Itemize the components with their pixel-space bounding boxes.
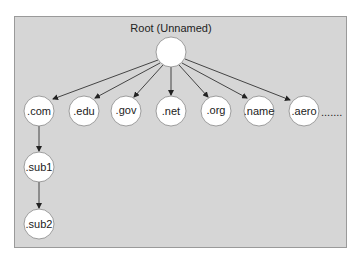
tld-label-net: .net: [162, 105, 180, 117]
tld-label-name: .name: [244, 105, 275, 117]
edge-root-aero: [185, 59, 290, 100]
root-node: [156, 37, 186, 67]
subdomain-label-sub2: .sub2: [26, 218, 53, 230]
edge-root-com: [53, 60, 158, 99]
tld-label-edu: .edu: [73, 105, 94, 117]
tld-label-aero: .aero: [291, 105, 316, 117]
subdomain-label-sub1: .sub1: [26, 161, 53, 173]
tld-label-com: .com: [27, 105, 51, 117]
edge-root-org: [179, 65, 208, 97]
edge-root-name: [182, 63, 247, 98]
edge-root-edu: [95, 63, 160, 98]
tld-label-org: .org: [207, 104, 226, 116]
tld-label-gov: .gov: [116, 104, 137, 116]
more-tlds-ellipsis: .......: [321, 106, 342, 118]
edge-root-gov: [134, 65, 163, 97]
root-title: Root (Unnamed): [130, 22, 211, 34]
tld-nodes: .com .edu .gov .net .org .name .aero: [24, 96, 319, 126]
root-edges: [39, 59, 290, 208]
dns-tree-diagram: Root (Unnamed) .com .edu .gov .net .org …: [0, 0, 360, 265]
